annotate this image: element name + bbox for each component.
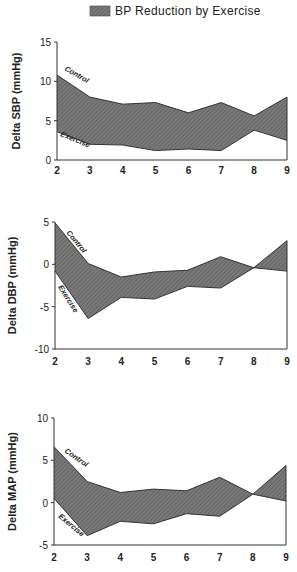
y-tick-label: -5 (40, 302, 49, 313)
y-tick-label: 10 (40, 76, 52, 87)
x-tick-label: 4 (119, 356, 125, 367)
x-tick-label: 5 (153, 165, 159, 176)
y-tick-label: -5 (39, 540, 48, 551)
x-tick-label: 2 (51, 552, 57, 563)
x-tick-label: 2 (52, 356, 58, 367)
y-tick-label: 5 (42, 455, 48, 466)
x-tick-label: 7 (217, 552, 223, 563)
legend: BP Reduction by Exercise (90, 4, 261, 18)
x-tick-label: 5 (152, 356, 158, 367)
x-tick-label: 6 (185, 356, 191, 367)
x-tick-label: 3 (87, 165, 93, 176)
legend-swatch (90, 6, 110, 16)
y-axis-label: Delta SBP (mmHg) (10, 52, 22, 149)
y-tick-label: 10 (37, 413, 49, 424)
panel-dbp: -10-50523456789Delta DBP (mmHg)ControlEx… (6, 217, 290, 367)
x-tick-label: 8 (251, 165, 257, 176)
y-axis-label: Delta MAP (mmHg) (6, 432, 18, 531)
reduction-band (57, 75, 287, 151)
y-tick-label: 0 (42, 498, 48, 509)
x-tick-label: 5 (151, 552, 157, 563)
x-tick-label: 8 (250, 552, 256, 563)
figure-canvas: BP Reduction by Exercise 05101523456789D… (0, 0, 297, 572)
y-tick-label: 0 (43, 259, 49, 270)
legend-label: BP Reduction by Exercise (115, 4, 261, 18)
y-tick-label: 0 (45, 155, 51, 166)
x-tick-label: 7 (219, 165, 225, 176)
x-tick-label: 9 (283, 552, 289, 563)
x-tick-label: 6 (184, 552, 190, 563)
x-tick-label: 4 (118, 552, 124, 563)
x-tick-label: 9 (284, 165, 290, 176)
figure: BP Reduction by Exercise 05101523456789D… (0, 0, 297, 572)
y-tick-label: -10 (35, 344, 50, 355)
y-tick-label: 15 (40, 37, 52, 48)
x-tick-label: 7 (218, 356, 224, 367)
x-tick-label: 6 (186, 165, 192, 176)
y-axis-label: Delta DBP (mmHg) (6, 236, 18, 334)
x-tick-label: 4 (120, 165, 126, 176)
y-tick-label: 5 (45, 116, 51, 127)
x-tick-label: 9 (284, 356, 290, 367)
y-tick-label: 5 (43, 217, 49, 228)
panel-sbp: 05101523456789Delta SBP (mmHg)ControlExe… (10, 37, 290, 176)
x-tick-label: 3 (84, 552, 90, 563)
x-tick-label: 3 (85, 356, 91, 367)
x-tick-label: 8 (251, 356, 257, 367)
x-tick-label: 2 (54, 165, 60, 176)
panel-map: -5051023456789Delta MAP (mmHg)ControlExe… (6, 413, 289, 563)
